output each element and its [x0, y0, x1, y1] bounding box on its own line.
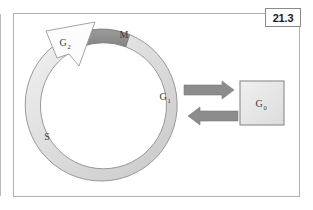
phase-label-s: S: [44, 131, 50, 142]
phase-label-g2-text: G: [59, 37, 66, 48]
phase-label-g1-sub: 1: [167, 97, 170, 104]
g0-box-label-sub: 0: [263, 104, 266, 111]
phase-label-m: M: [120, 29, 129, 40]
phase-label-m-text: M: [120, 29, 129, 40]
arrow-exit-g0: [188, 107, 238, 125]
phase-label-s-text: S: [44, 131, 50, 142]
arrow-enter-g0: [184, 81, 234, 99]
phase-label-g1-text: G: [159, 91, 166, 102]
cell-cycle-diagram: M G 1 S G 2 G 0: [0, 0, 313, 210]
ring-main-band: [25, 35, 177, 182]
g0-box-label-text: G: [255, 98, 262, 109]
phase-label-g2-sub: 2: [67, 43, 70, 50]
figure-container: 21.3: [0, 0, 313, 210]
